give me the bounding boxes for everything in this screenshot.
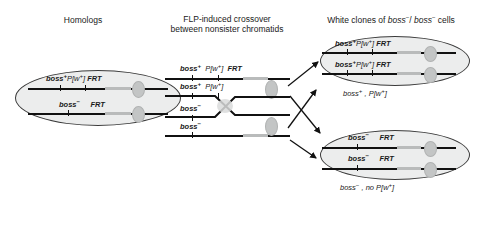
white-clone-cell-boss-minus	[320, 130, 470, 180]
bottomcell-row1-frt-bar	[397, 146, 421, 149]
topcell-row1-tick-2	[372, 49, 373, 55]
arrow-to-top-cell-1	[288, 62, 318, 86]
bottomcell-caption: boss− , no P[w+]	[340, 183, 394, 192]
topcell-row1-label: boss+P[w+] FRT	[335, 39, 391, 48]
arrow-to-bottom-cell-1	[290, 96, 320, 133]
topcell-caption: boss+ , P[w+]	[343, 89, 387, 98]
bottomcell-row2-centromere	[424, 162, 437, 178]
bottomcell-row2-frt-bar	[397, 167, 421, 170]
bottomcell-row2-label: boss− FRT	[348, 154, 394, 163]
topcell-row1-centromere	[424, 46, 437, 62]
arrow-to-bottom-cell-2	[290, 140, 316, 158]
topcell-row1-tick-1	[347, 49, 348, 55]
topcell-row2-label: boss+P[w+] FRT	[335, 60, 391, 69]
topcell-row2-tick-1	[347, 70, 348, 76]
topcell-row2-tick-2	[372, 70, 373, 76]
topcell-row1-frt-bar	[397, 51, 421, 54]
bottomcell-row1-label: boss− FRT	[348, 133, 394, 142]
bottomcell-row1-tick-1	[357, 144, 358, 150]
topcell-row2-centromere	[424, 67, 437, 83]
bottomcell-row2-tick-1	[357, 165, 358, 171]
topcell-row2-frt-bar	[397, 72, 421, 75]
crossover-site-marker	[217, 99, 233, 113]
bottomcell-row1-centromere	[424, 141, 437, 157]
